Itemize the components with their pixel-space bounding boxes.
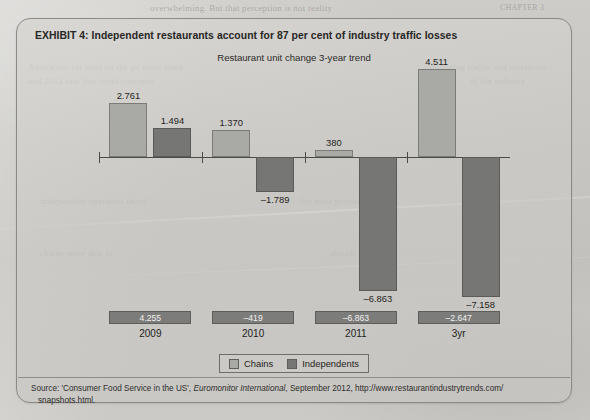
bar-independents-2009 xyxy=(153,128,191,157)
category-label-2009: 2009 xyxy=(109,328,191,339)
bar-value-label: 4.511 xyxy=(409,56,465,67)
source-divider xyxy=(18,377,570,378)
source-prefix: Source: xyxy=(31,384,62,393)
chart-subtitle: Restaurant unit change 3-year trend xyxy=(17,52,571,63)
source-quote: 'Consumer Food Service in the US', xyxy=(62,384,194,393)
net-total-box-2010: –419 xyxy=(212,311,294,324)
legend-swatch-independents-icon xyxy=(287,359,297,369)
bar-chains-3yr xyxy=(418,69,456,157)
category-label-2011: 2011 xyxy=(315,328,397,339)
bar-chart-plot-area: 2.7611.4941.370–1.789380–6.8634.511–7.15… xyxy=(99,77,527,307)
legend-label-independents: Independents xyxy=(302,358,359,369)
bar-value-label: 1.494 xyxy=(144,115,200,126)
page-title: EXHIBIT 4: Independent restaurants accou… xyxy=(35,30,457,41)
net-total-box-3yr: –2.647 xyxy=(418,311,500,324)
legend-swatch-chains-icon xyxy=(229,359,239,369)
chart-legend: Chains Independents xyxy=(219,354,369,373)
source-rest: , September 2012, http://www.restauranti… xyxy=(285,384,503,393)
source-line-2: snapshots.html. xyxy=(31,395,559,407)
source-footnote: Source: 'Consumer Food Service in the US… xyxy=(31,383,559,406)
bar-chains-2011 xyxy=(315,150,353,157)
bar-independents-2010 xyxy=(256,157,294,192)
bar-value-label: 1.370 xyxy=(203,117,259,128)
bar-value-label: –1.789 xyxy=(247,194,303,205)
axis-tick xyxy=(407,152,408,163)
legend-label-chains: Chains xyxy=(244,358,273,369)
bar-independents-3yr xyxy=(462,157,500,297)
exhibit-panel: EXHIBIT 4: Independent restaurants accou… xyxy=(16,18,572,403)
axis-tick xyxy=(99,152,100,163)
category-label-2010: 2010 xyxy=(212,328,294,339)
net-total-box-2009: 4.255 xyxy=(109,311,191,324)
category-label-3yr: 3yr xyxy=(418,328,500,339)
legend-item-independents: Independents xyxy=(287,358,359,369)
bar-chains-2010 xyxy=(212,130,250,157)
source-publication: Euromonitor International xyxy=(193,384,285,393)
bar-value-label: 380 xyxy=(306,137,362,148)
legend-item-chains: Chains xyxy=(229,358,273,369)
bar-value-label: –6.863 xyxy=(350,293,406,304)
bar-chains-2009 xyxy=(109,103,147,157)
axis-tick xyxy=(202,152,203,163)
bar-value-label: 2.761 xyxy=(100,90,156,101)
net-total-summary-row: 4.2552009–4192010–6.8632011–2.6473yr xyxy=(99,311,527,357)
bar-independents-2011 xyxy=(359,157,397,291)
bar-value-label: –7.158 xyxy=(453,299,509,310)
net-total-box-2011: –6.863 xyxy=(315,311,397,324)
axis-tick xyxy=(305,152,306,163)
